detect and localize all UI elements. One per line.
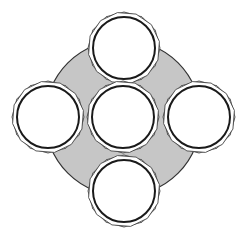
- white-circle: [92, 86, 154, 148]
- circle-top: [88, 12, 160, 84]
- white-circle: [17, 86, 79, 148]
- circle-right: [163, 81, 235, 153]
- circle-center: [87, 81, 159, 153]
- white-circle: [93, 17, 155, 79]
- circle-left: [12, 81, 84, 153]
- circle-bottom: [88, 155, 160, 227]
- circle-group: [12, 12, 235, 227]
- white-circle: [93, 160, 155, 222]
- diagram-canvas: [0, 0, 251, 233]
- white-circle: [168, 86, 230, 148]
